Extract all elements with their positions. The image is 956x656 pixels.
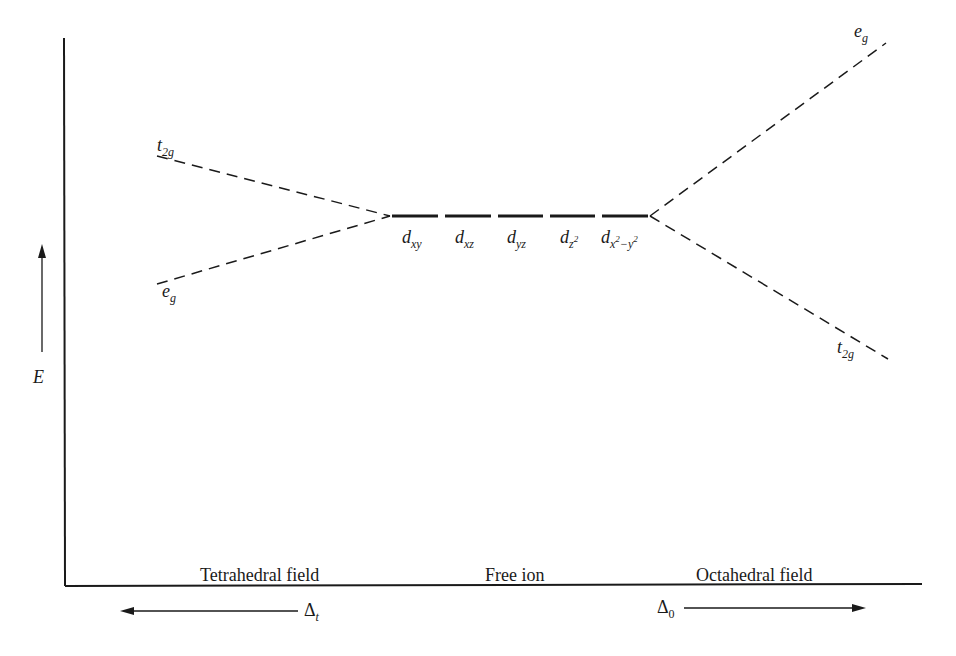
orbital-label-dxz: dxz (455, 228, 474, 246)
tetra-eg-line (157, 216, 390, 284)
octa-t2g-label: t2g (837, 338, 854, 356)
tetra-t2g-line (157, 156, 390, 216)
delta-o-arrow (684, 604, 866, 612)
orbital-label-dxy: dxy (402, 228, 422, 246)
orbital-label-dx2-y2: dx2−y2 (601, 228, 638, 246)
octa-eg-line (650, 43, 886, 216)
section-label-octahedral: Octahedral field (696, 566, 812, 584)
energy-arrow (38, 244, 46, 352)
octa-eg-label: eg (854, 22, 868, 40)
orbital-label-dyz: dyz (507, 228, 526, 246)
tetrahedral-splitting (157, 156, 390, 284)
orbital-label-dz2: dz2 (560, 228, 578, 246)
y-axis (64, 38, 65, 586)
diagram-canvas (0, 0, 956, 656)
tetra-t2g-label: t2g (157, 136, 174, 154)
delta-t-label: Δt (304, 601, 319, 619)
delta-o-label: Δ0 (657, 598, 675, 616)
section-label-tetrahedral: Tetrahedral field (200, 566, 319, 584)
tetra-eg-label: eg (162, 282, 176, 300)
section-label-free-ion: Free ion (485, 566, 544, 584)
octahedral-splitting (650, 43, 888, 359)
energy-label: E (33, 368, 44, 386)
delta-t-arrow (120, 607, 298, 615)
